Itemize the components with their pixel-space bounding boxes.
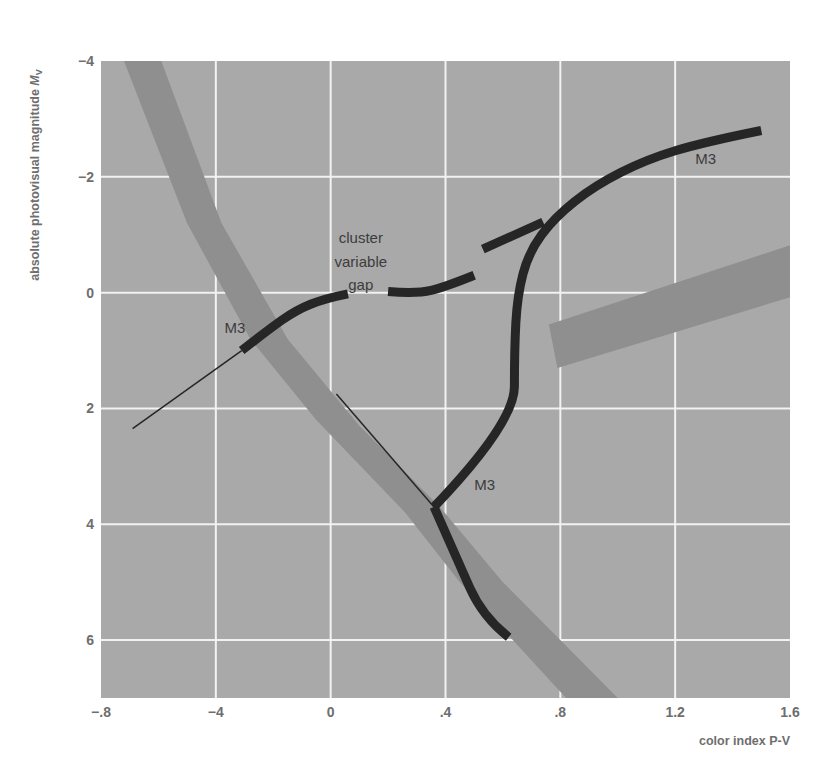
chart-annotation: M3 — [695, 150, 716, 167]
y-tick-label: 2 — [86, 400, 94, 416]
x-tick-label: −.8 — [91, 704, 111, 720]
x-tick-label: −4 — [208, 704, 224, 720]
chart-annotation: gap — [348, 276, 373, 293]
y-axis-label-italic: M — [28, 75, 42, 86]
chart-annotation: variable — [335, 253, 388, 270]
y-axis-label-main: absolute photovisual magnitude — [28, 86, 42, 281]
chart-annotation: M3 — [474, 476, 495, 493]
x-tick-label: .8 — [554, 704, 566, 720]
y-axis-label-sub: V — [34, 69, 44, 75]
x-axis-ticks: −.8−40.4.81.21.6 — [91, 704, 800, 720]
y-tick-label: −4 — [78, 53, 94, 69]
x-tick-label: 0 — [327, 704, 335, 720]
x-axis-label: color index P-V — [699, 734, 791, 748]
y-tick-label: 6 — [86, 632, 94, 648]
x-tick-label: 1.2 — [665, 704, 685, 720]
y-tick-label: 0 — [86, 285, 94, 301]
chart-annotation: cluster — [339, 229, 383, 246]
y-tick-label: −2 — [78, 169, 94, 185]
y-tick-label: 4 — [86, 516, 94, 532]
x-tick-label: .4 — [440, 704, 452, 720]
chart-annotation: M3 — [224, 319, 245, 336]
x-tick-label: 1.6 — [780, 704, 800, 720]
y-axis-label: absolute photovisual magnitude MV — [28, 69, 44, 281]
hr-diagram-chart: M3M3M3clustervariablegap −.8−40.4.81.21.… — [0, 0, 835, 778]
y-axis-ticks: −4−20246 — [78, 53, 94, 648]
